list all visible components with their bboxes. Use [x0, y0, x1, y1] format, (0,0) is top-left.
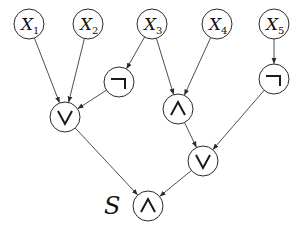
node-circle — [50, 102, 80, 132]
edge-not2-to-or2 — [213, 90, 264, 149]
node-not2 — [259, 64, 289, 94]
edge-and1-to-or2 — [185, 123, 197, 148]
node-circle — [188, 146, 218, 176]
node-not1 — [104, 67, 134, 97]
edge-x3-to-not1 — [127, 37, 145, 69]
node-or1 — [50, 102, 80, 132]
node-x4: X4 — [202, 9, 232, 39]
node-circle — [163, 94, 193, 124]
edge-not1-to-or1 — [78, 90, 106, 108]
edge-x3-to-and1 — [156, 38, 173, 94]
variable-subscript: 2 — [92, 25, 98, 36]
edge-x4-to-and1 — [185, 38, 211, 95]
variable-subscript: 3 — [156, 25, 162, 36]
edge-or2-to-and_root — [160, 171, 191, 197]
node-and_root — [133, 191, 163, 221]
node-circle — [104, 67, 134, 97]
root-label-s: S — [104, 192, 120, 220]
nodes-layer: X1X2X3X4X5 — [14, 9, 289, 221]
variable-subscript: 4 — [221, 25, 227, 36]
edge-or1-to-and_root — [75, 128, 137, 195]
node-x1: X1 — [14, 9, 44, 39]
variable-subscript: 1 — [33, 25, 39, 36]
node-circle — [133, 191, 163, 221]
node-and1 — [163, 94, 193, 124]
variable-subscript: 5 — [278, 25, 284, 36]
edge-x2-to-or1 — [69, 39, 85, 102]
node-x5: X5 — [259, 9, 289, 39]
node-circle — [259, 64, 289, 94]
diagram-svg: X1X2X3X4X5 S — [0, 0, 304, 231]
node-or2 — [188, 146, 218, 176]
node-x3: X3 — [137, 9, 167, 39]
logic-diagram: X1X2X3X4X5 S — [0, 0, 304, 231]
node-x2: X2 — [73, 9, 103, 39]
edge-x1-to-or1 — [34, 38, 59, 103]
